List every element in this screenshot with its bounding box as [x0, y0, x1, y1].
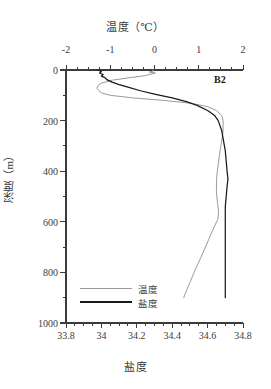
- series-layer: [97, 70, 228, 298]
- legend: [80, 288, 132, 302]
- profile-chart-figure: 温度（℃） 盐度 深度（m） B2 -2-101233.83434.234.43…: [0, 0, 271, 389]
- series-line-temperature: [97, 70, 223, 298]
- plot-area: [0, 0, 271, 389]
- legend-label-temperature: 温度: [138, 282, 158, 296]
- legend-label-salinity: 盐度: [138, 296, 158, 310]
- series-line-salinity: [98, 70, 228, 298]
